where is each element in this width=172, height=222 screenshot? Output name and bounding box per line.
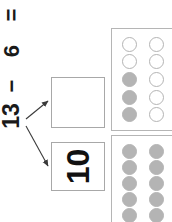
bottom-part-box-value: 10 (55, 141, 102, 193)
ten-frame-dot-empty[interactable] (149, 90, 164, 105)
ten-frame-top[interactable] (111, 28, 172, 131)
arrow-to-bottom-box (26, 126, 48, 166)
ten-frame-dot-empty[interactable] (122, 54, 137, 69)
ten-frame-dot-empty[interactable] (149, 107, 164, 122)
ten-frame-dot-filled[interactable] (122, 144, 137, 159)
ten-frame-bottom[interactable] (111, 135, 172, 222)
equation-subtrahend: 6 (1, 32, 23, 70)
ten-frame-dot-empty[interactable] (122, 37, 137, 52)
ten-frame-dot-filled[interactable] (122, 208, 137, 222)
ten-frame-dot-filled[interactable] (122, 176, 137, 191)
ten-frame-dot-filled[interactable] (122, 160, 137, 175)
top-part-box[interactable] (51, 77, 105, 128)
ten-frame-dot-filled[interactable] (149, 144, 164, 159)
top-part-box-value (54, 77, 103, 129)
ten-frame-dot-empty[interactable] (149, 37, 164, 52)
ten-frame-dot-filled[interactable] (149, 208, 164, 222)
ten-frame-dot-filled[interactable] (122, 107, 137, 122)
ten-frame-dot-filled[interactable] (122, 72, 137, 87)
ten-frame-dot-filled[interactable] (122, 192, 137, 207)
bottom-part-box[interactable]: 10 (51, 142, 105, 191)
ten-frame-dot-filled[interactable] (149, 176, 164, 191)
equation-minuend: 13 (0, 95, 24, 137)
ten-frame-dot-filled[interactable] (122, 90, 137, 105)
ten-frame-dot-empty[interactable] (149, 72, 164, 87)
ten-frame-dot-filled[interactable] (149, 160, 164, 175)
ten-frame-dot-filled[interactable] (149, 192, 164, 207)
worksheet-canvas: = 6 − 13 10 (0, 0, 172, 222)
arrow-to-top-box (26, 101, 48, 119)
equation-equals-sign: = (1, 0, 23, 34)
ten-frame-dot-empty[interactable] (149, 54, 164, 69)
